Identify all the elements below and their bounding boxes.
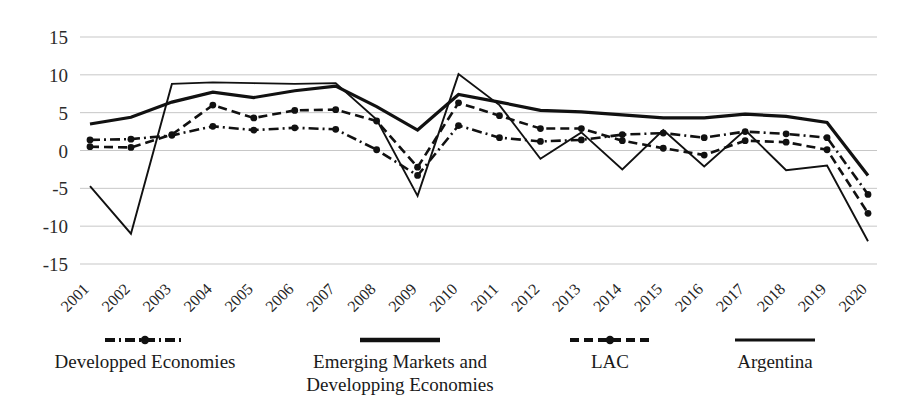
data-point-marker bbox=[250, 115, 257, 122]
data-point-marker bbox=[332, 126, 339, 133]
legend-label: LAC bbox=[591, 351, 629, 372]
y-tick-label: 5 bbox=[59, 103, 69, 124]
legend-label-line2: Developping Economies bbox=[306, 374, 493, 395]
data-point-marker bbox=[250, 127, 257, 134]
line-chart: 151050-5-10-15 2001200220032004200520062… bbox=[0, 0, 906, 416]
data-point-marker bbox=[619, 137, 626, 144]
data-point-marker bbox=[128, 136, 135, 143]
data-point-marker bbox=[496, 112, 503, 119]
data-point-marker bbox=[742, 128, 749, 135]
data-point-marker bbox=[414, 172, 421, 179]
data-point-marker bbox=[865, 191, 872, 198]
data-point-marker bbox=[783, 139, 790, 146]
data-point-marker bbox=[660, 145, 667, 152]
data-point-marker bbox=[87, 143, 94, 150]
chart-canvas: 151050-5-10-15 2001200220032004200520062… bbox=[0, 0, 906, 416]
legend-label: Developped Economies bbox=[55, 351, 236, 372]
legend-marker-swatch bbox=[141, 336, 149, 344]
legend-marker-swatch bbox=[606, 336, 614, 344]
data-point-marker bbox=[660, 130, 667, 137]
legend-label: Emerging Markets and bbox=[313, 351, 487, 372]
data-point-marker bbox=[865, 210, 872, 217]
data-point-marker bbox=[701, 152, 708, 159]
y-tick-label: -10 bbox=[43, 216, 68, 237]
data-point-marker bbox=[128, 144, 135, 151]
data-point-marker bbox=[87, 137, 94, 144]
data-point-marker bbox=[496, 134, 503, 141]
data-point-marker bbox=[373, 146, 380, 153]
data-point-marker bbox=[824, 134, 831, 141]
y-tick-label: 0 bbox=[59, 141, 69, 162]
data-point-marker bbox=[373, 118, 380, 125]
data-point-marker bbox=[578, 137, 585, 144]
y-tick-label: 10 bbox=[49, 65, 68, 86]
data-point-marker bbox=[824, 146, 831, 153]
data-point-marker bbox=[742, 137, 749, 144]
data-point-marker bbox=[209, 102, 216, 109]
data-point-marker bbox=[783, 130, 790, 137]
data-point-marker bbox=[332, 106, 339, 113]
data-point-marker bbox=[291, 124, 298, 131]
data-point-marker bbox=[455, 122, 462, 129]
data-point-marker bbox=[537, 125, 544, 132]
data-point-marker bbox=[414, 164, 421, 171]
data-point-marker bbox=[578, 125, 585, 132]
legend-label: Argentina bbox=[737, 351, 813, 372]
data-point-marker bbox=[619, 131, 626, 138]
y-tick-label: -15 bbox=[43, 254, 68, 275]
data-point-marker bbox=[209, 123, 216, 130]
data-point-marker bbox=[701, 134, 708, 141]
y-tick-label: -5 bbox=[52, 178, 68, 199]
data-point-marker bbox=[168, 131, 175, 138]
y-tick-label: 15 bbox=[49, 27, 68, 48]
data-point-marker bbox=[455, 99, 462, 106]
data-point-marker bbox=[537, 138, 544, 145]
data-point-marker bbox=[291, 107, 298, 114]
